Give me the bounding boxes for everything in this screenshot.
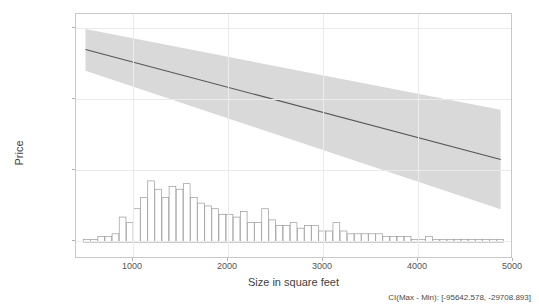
gridline-vertical (323, 14, 324, 257)
x-axis-tick-mark (512, 258, 513, 261)
x-axis-tick-label: 3000 (312, 262, 332, 271)
histogram-bar (133, 209, 140, 242)
histogram-bar (233, 217, 240, 242)
histogram-bar (119, 217, 126, 242)
x-axis-tick-mark (132, 258, 133, 261)
histogram-bar (155, 189, 162, 242)
histogram-bar (162, 198, 169, 243)
histogram-bar (262, 209, 269, 242)
histogram-bar (141, 198, 148, 243)
plot-canvas (76, 14, 512, 258)
gridline-horizontal (76, 170, 511, 171)
histogram-bar (269, 220, 276, 242)
histogram-bar (247, 223, 254, 242)
histogram-bar (219, 214, 226, 242)
x-axis-tick-mark (227, 258, 228, 261)
plot-area (75, 13, 512, 258)
gridline-horizontal (76, 28, 511, 29)
histogram-bar (304, 225, 311, 242)
partial-dependence-chart: Price 0-40000-80000-120000 1000200030004… (0, 0, 539, 306)
histogram-bar (290, 223, 297, 242)
gridline-horizontal (76, 241, 511, 242)
histogram-bar (240, 212, 247, 243)
histogram-bar (176, 189, 183, 242)
gridline-vertical (133, 14, 134, 257)
histogram-bar (169, 186, 176, 242)
histogram-bar (255, 223, 262, 242)
histogram-bar (190, 198, 197, 243)
x-axis-title: Size in square feet (75, 276, 512, 288)
histogram-bar (183, 184, 190, 242)
histogram-bar (276, 225, 283, 242)
x-axis-tick-label: 2000 (217, 262, 237, 271)
y-axis-title: Price (13, 140, 25, 165)
histogram-bar (283, 225, 290, 242)
x-axis-tick-mark (417, 258, 418, 261)
size-distribution-histogram (84, 181, 504, 242)
x-axis-tick-mark (322, 258, 323, 261)
gridline-horizontal (76, 99, 511, 100)
histogram-bar (212, 209, 219, 242)
gridline-vertical (418, 14, 419, 257)
x-axis-tick-label: 1000 (122, 262, 142, 271)
histogram-bar (312, 225, 319, 242)
histogram-bar (333, 223, 340, 242)
histogram-bar (198, 203, 205, 242)
histogram-bar (297, 228, 304, 242)
x-axis-tick-label: 5000 (502, 262, 522, 271)
gridline-vertical (228, 14, 229, 257)
histogram-bar (148, 181, 155, 242)
x-axis-tick-label: 4000 (407, 262, 427, 271)
ci-range-caption: CI(Max - Min): [-95642.578, -29708.893] (388, 293, 531, 302)
histogram-bar (205, 206, 212, 242)
